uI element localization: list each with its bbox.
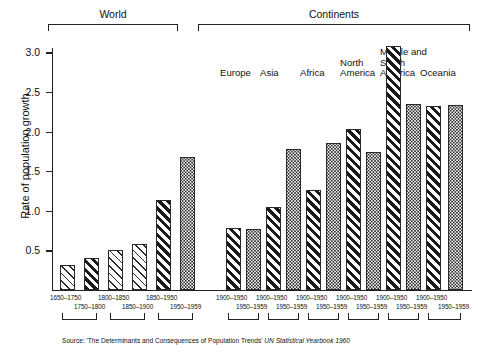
period-label: 1850–1900: [122, 303, 153, 310]
group-bracket: [348, 313, 379, 320]
bar: [386, 46, 401, 290]
continent-label-asia: Asia: [260, 68, 279, 79]
period-label: 1950–1959: [170, 303, 201, 310]
y-tick-mark: [46, 171, 53, 172]
period-label: 1900–1950: [256, 294, 287, 301]
group-title-continents: Continents: [198, 8, 470, 20]
bar: [84, 258, 99, 290]
y-tick-mark: [46, 250, 53, 251]
period-label: 1650–1750: [50, 294, 81, 301]
period-label: 1900–1950: [216, 294, 247, 301]
bar: [156, 200, 171, 290]
bar: [132, 244, 147, 290]
y-tick-label: 3.0: [0, 46, 40, 58]
period-label: 1900–1950: [416, 294, 447, 301]
bar: [246, 229, 261, 290]
group-bracket: [62, 313, 97, 320]
bar: [286, 149, 301, 290]
bar: [226, 228, 241, 290]
source-prefix: Source: 'The Determinants and Consequenc…: [62, 337, 264, 344]
continent-label-north: North America: [340, 58, 375, 79]
bar: [366, 152, 381, 290]
y-tick-label: 0.5: [0, 244, 40, 256]
bar: [448, 105, 463, 290]
y-axis: [52, 48, 53, 291]
group-bracket: [388, 313, 419, 320]
y-axis-title: Rate of population growth: [19, 71, 31, 241]
bar: [406, 104, 421, 290]
x-axis: [52, 290, 472, 291]
period-label: 1900–1950: [296, 294, 327, 301]
group-bracket: [228, 313, 259, 320]
period-label: 1900–1950: [336, 294, 367, 301]
period-label: 1950–1959: [236, 303, 267, 310]
y-tick-mark: [46, 52, 53, 53]
group-title-world: World: [48, 8, 178, 20]
bar: [346, 129, 361, 290]
bar: [306, 190, 321, 290]
period-label: 1950–1959: [396, 303, 427, 310]
group-bracket: [110, 313, 145, 320]
continent-label-oceania: Oceania: [420, 68, 456, 79]
period-label: 1950–1959: [276, 303, 307, 310]
group-bracket: [158, 313, 193, 320]
bar: [426, 106, 441, 290]
period-label: 1900–1950: [376, 294, 407, 301]
period-label: 1800–1850: [98, 294, 129, 301]
group-bracket: [268, 313, 299, 320]
y-tick-mark: [46, 92, 53, 93]
period-label: 1850–1950: [146, 294, 177, 301]
bar: [326, 143, 341, 290]
period-label: 1950–1959: [316, 303, 347, 310]
y-tick-mark: [46, 132, 53, 133]
group-bracket: [428, 313, 461, 320]
bar: [266, 207, 281, 290]
group-bracket: [308, 313, 339, 320]
bar: [60, 265, 75, 290]
bar: [108, 250, 123, 290]
period-label: 1950–1959: [438, 303, 469, 310]
y-tick-mark: [46, 211, 53, 212]
population-growth-bar-chart: World Continents EuropeAsiaAfricaNorth A…: [0, 0, 478, 355]
source-note: Source: 'The Determinants and Consequenc…: [62, 337, 350, 344]
period-label: 1750–1800: [74, 303, 105, 310]
source-italic: UN Statistical Yearbook 1960: [264, 337, 350, 344]
period-label: 1950–1959: [356, 303, 387, 310]
bar: [180, 157, 195, 290]
continent-label-africa: Africa: [300, 68, 325, 79]
continent-label-europe: Europe: [220, 68, 251, 79]
bracket-world: [48, 24, 178, 31]
bracket-continents: [198, 24, 470, 31]
